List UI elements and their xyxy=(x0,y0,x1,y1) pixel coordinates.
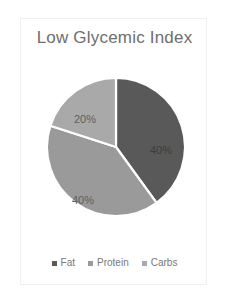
legend-label-fat: Fat xyxy=(61,258,75,268)
pie-plot-area: 40% 40% 20% xyxy=(46,77,186,217)
legend-item-protein[interactable]: Protein xyxy=(88,258,129,268)
legend-label-protein: Protein xyxy=(97,258,129,268)
legend-item-fat[interactable]: Fat xyxy=(52,258,75,268)
legend-swatch-fat xyxy=(52,261,57,266)
legend-item-carbs[interactable]: Carbs xyxy=(142,258,178,268)
chart-legend: Fat Protein Carbs xyxy=(0,258,229,268)
pie-svg xyxy=(46,77,186,217)
legend-swatch-carbs xyxy=(142,261,147,266)
chart-title: Low Glycemic Index xyxy=(0,28,229,48)
legend-label-carbs: Carbs xyxy=(151,258,178,268)
legend-swatch-protein xyxy=(88,261,93,266)
pie-chart-card: Low Glycemic Index 40% 40% 20% Fat Prote… xyxy=(0,0,229,305)
